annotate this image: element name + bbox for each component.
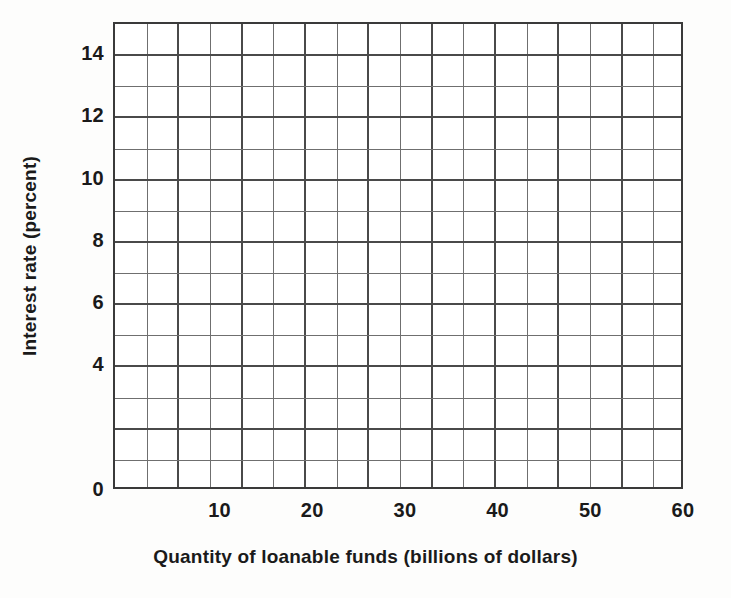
x-axis-tick-labels: 102030405060 xyxy=(0,500,731,526)
vertical-gridline xyxy=(590,24,591,487)
horizontal-gridline xyxy=(115,365,681,367)
vertical-gridline xyxy=(653,24,654,487)
horizontal-gridline xyxy=(115,398,681,399)
vertical-gridline xyxy=(557,24,559,487)
y-axis-tick-label: 8 xyxy=(93,230,104,250)
vertical-gridline xyxy=(527,24,528,487)
x-axis-tick-label: 40 xyxy=(468,500,528,520)
vertical-gridline xyxy=(147,24,148,487)
y-axis-title: Interest rate (percent) xyxy=(19,156,41,356)
vertical-gridline xyxy=(273,24,274,487)
y-axis-tick-label: 6 xyxy=(93,292,104,312)
vertical-gridline xyxy=(177,24,179,487)
vertical-gridline xyxy=(337,24,338,487)
x-axis-tick-label: 20 xyxy=(282,500,342,520)
y-axis-title-container: Interest rate (percent) xyxy=(10,22,50,489)
horizontal-gridline xyxy=(115,335,681,336)
y-axis-tick-label: 10 xyxy=(81,168,104,188)
x-axis-tick-label: 10 xyxy=(190,500,250,520)
horizontal-gridline xyxy=(115,179,681,181)
horizontal-gridline xyxy=(115,428,681,430)
y-axis-tick-label: 14 xyxy=(81,43,104,63)
gridlines xyxy=(115,24,681,487)
plot-area xyxy=(113,22,683,489)
x-axis-tick-label: 30 xyxy=(375,500,435,520)
chart-figure: 0468101214 102030405060 Quantity of loan… xyxy=(0,0,731,598)
vertical-gridline xyxy=(463,24,464,487)
horizontal-gridline xyxy=(115,86,681,87)
horizontal-gridline xyxy=(115,460,681,461)
horizontal-gridline xyxy=(115,303,681,305)
vertical-gridline xyxy=(400,24,401,487)
horizontal-gridline xyxy=(115,211,681,212)
x-axis-tick-label: 50 xyxy=(560,500,620,520)
horizontal-gridline xyxy=(115,273,681,274)
x-axis-title: Quantity of loanable funds (billions of … xyxy=(0,546,731,568)
y-axis-tick-label: 12 xyxy=(81,105,104,125)
horizontal-gridline xyxy=(115,241,681,243)
vertical-gridline xyxy=(621,24,623,487)
vertical-gridline xyxy=(304,24,306,487)
vertical-gridline xyxy=(367,24,369,487)
vertical-gridline xyxy=(494,24,496,487)
y-axis-tick-label: 4 xyxy=(93,354,104,374)
y-axis-tick-label: 0 xyxy=(93,479,104,499)
horizontal-gridline xyxy=(115,116,681,118)
vertical-gridline xyxy=(210,24,211,487)
horizontal-gridline xyxy=(115,54,681,56)
x-axis-tick-label: 60 xyxy=(653,500,713,520)
horizontal-gridline xyxy=(115,149,681,150)
vertical-gridline xyxy=(241,24,243,487)
vertical-gridline xyxy=(431,24,433,487)
